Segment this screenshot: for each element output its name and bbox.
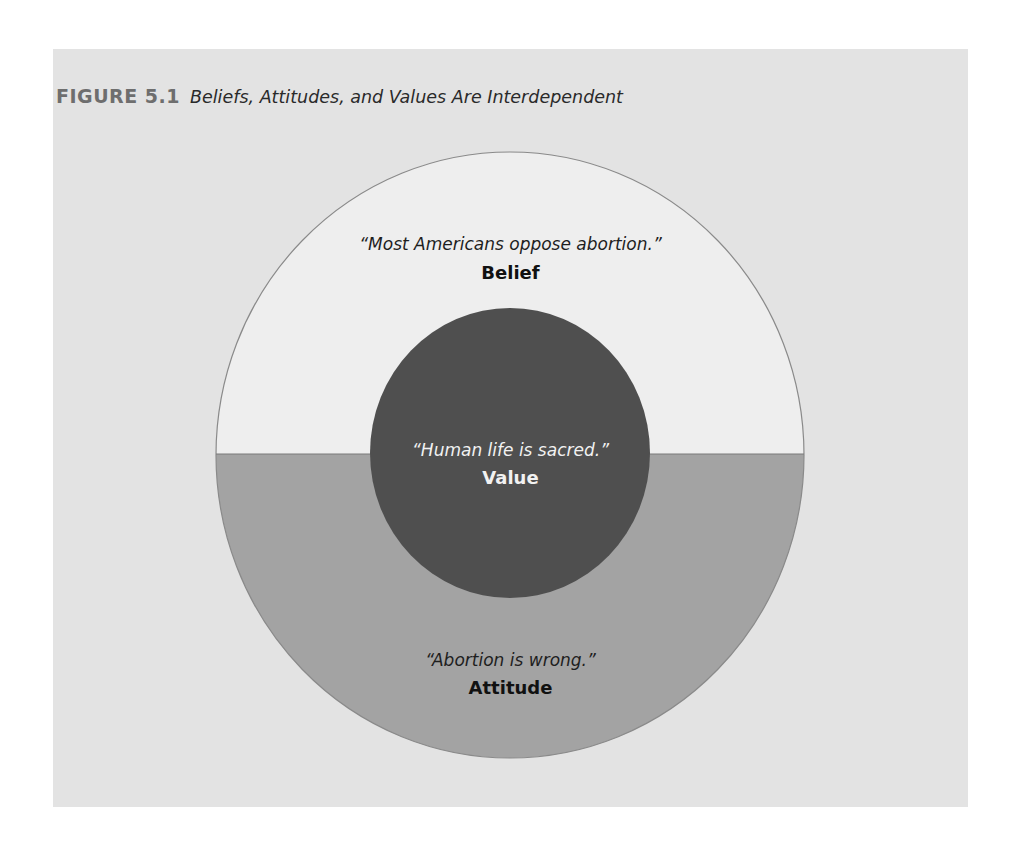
belief-label: Belief (0, 262, 1021, 283)
value-quote: “Human life is sacred.” (0, 440, 1021, 460)
concentric-diagram (0, 0, 1021, 845)
value-label: Value (0, 467, 1021, 488)
attitude-quote: “Abortion is wrong.” (0, 650, 1021, 670)
belief-quote: “Most Americans oppose abortion.” (0, 234, 1021, 254)
attitude-label: Attitude (0, 677, 1021, 698)
